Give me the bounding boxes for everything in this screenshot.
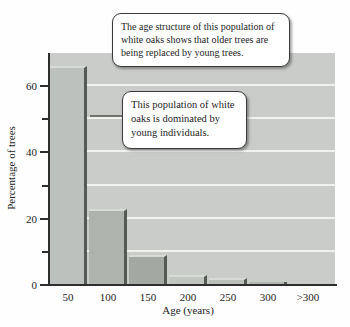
x-axis-line bbox=[44, 284, 337, 286]
bar-age-150 bbox=[129, 255, 167, 285]
y-axis-line bbox=[48, 53, 50, 286]
y-tick-minor-30 bbox=[42, 185, 48, 187]
callout-age-structure: The age structure of this population of … bbox=[112, 13, 290, 67]
bar-age-50 bbox=[49, 66, 87, 285]
x-tick-label-gt300: >300 bbox=[288, 291, 328, 303]
callout-young-dominated-text: This population of white oaks is dominat… bbox=[131, 99, 235, 138]
y-tick-major-20 bbox=[40, 218, 48, 220]
x-tick-label-50: 50 bbox=[48, 291, 88, 303]
y-tick-major-0 bbox=[40, 284, 48, 286]
y-tick-major-40 bbox=[40, 151, 48, 153]
plot-area bbox=[48, 53, 335, 285]
x-tick-label-100: 100 bbox=[88, 291, 128, 303]
y-tick-minor-50 bbox=[42, 118, 48, 120]
x-tick-label-200: 200 bbox=[168, 291, 208, 303]
y-tick-minor-10 bbox=[42, 251, 48, 253]
callout-leader-line bbox=[90, 115, 123, 117]
y-tick-major-60 bbox=[40, 85, 48, 87]
y-tick-label-60: 60 bbox=[11, 81, 37, 92]
y-axis-title: Percentage of trees bbox=[5, 93, 17, 243]
age-structure-figure: 0204060 50100150200250300>300 Percentage… bbox=[0, 0, 350, 327]
x-tick-label-150: 150 bbox=[128, 291, 168, 303]
callout-age-structure-text: The age structure of this population of … bbox=[121, 21, 274, 58]
gridline-30 bbox=[48, 184, 335, 186]
bar-age-100 bbox=[89, 209, 127, 285]
gridline-60 bbox=[48, 84, 335, 86]
gridline-40 bbox=[48, 150, 335, 152]
callout-young-dominated: This population of white oaks is dominat… bbox=[122, 91, 247, 149]
x-axis-title: Age (years) bbox=[118, 304, 258, 316]
x-tick-label-250: 250 bbox=[208, 291, 248, 303]
y-tick-label-0: 0 bbox=[11, 280, 37, 291]
x-tick-label-300: 300 bbox=[248, 291, 288, 303]
